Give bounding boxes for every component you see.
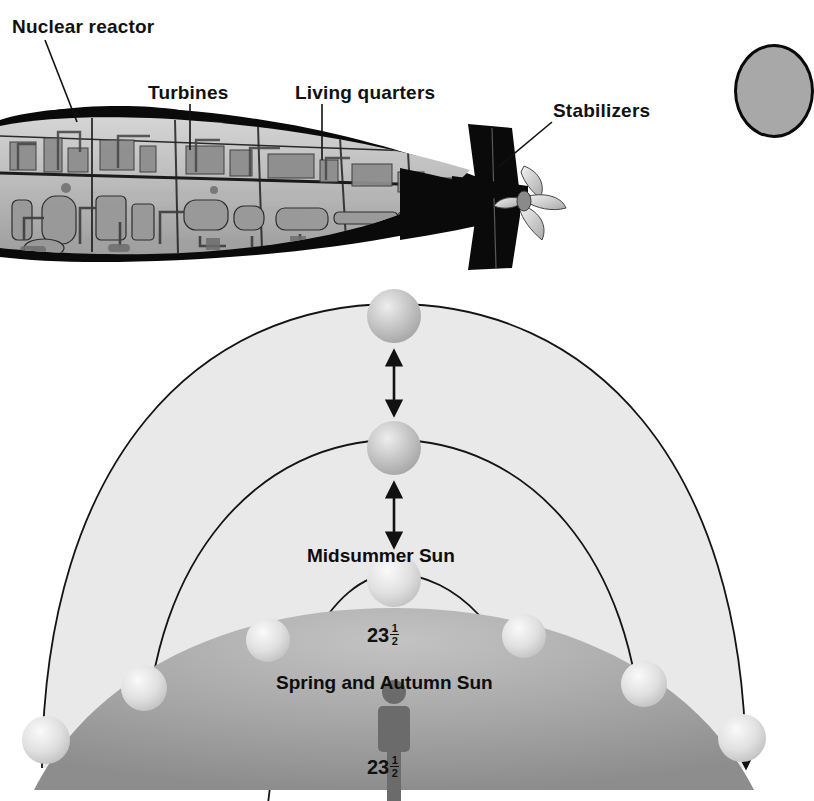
reactor-vessel (42, 196, 76, 244)
submarine-illustration (0, 0, 788, 280)
angle-whole-number: 23 (367, 757, 389, 777)
sun-label-midsummer: Midsummer Sun (307, 545, 455, 567)
sun-sphere-nw (718, 714, 766, 762)
turbine-housing (184, 200, 228, 230)
angle-fraction: 1 2 (390, 755, 399, 778)
fraction-denominator: 2 (392, 768, 398, 778)
sun-sphere-se (246, 618, 290, 662)
angle-annotation-lower: 23 1 2 (367, 755, 399, 778)
angle-whole-number: 23 (367, 625, 389, 645)
fraction-denominator: 2 (392, 636, 398, 646)
sun-sphere-spring-autumn (367, 421, 421, 475)
callout-label-nuclear-reactor: Nuclear reactor (12, 16, 154, 38)
sun-sphere-midsummer (367, 289, 421, 343)
sun-sphere-e (121, 665, 167, 711)
sun-sphere-sw (502, 614, 546, 658)
callout-label-stabilizers: Stabilizers (553, 100, 650, 122)
sun-path-illustration (0, 268, 788, 801)
angle-fraction: 1 2 (390, 623, 399, 646)
sun-sphere-w (621, 661, 667, 707)
callout-label-living-quarters: Living quarters (295, 82, 435, 104)
fraction-numerator: 1 (392, 755, 398, 765)
partial-circle-graphic (734, 44, 814, 138)
callout-label-turbines: Turbines (148, 82, 228, 104)
sun-sphere-ne (22, 716, 70, 764)
sun-label-spring-autumn: Spring and Autumn Sun (276, 672, 493, 694)
fraction-numerator: 1 (392, 623, 398, 633)
sun-path-diagram-figure: Midsummer Sun Spring and Autumn Sun Midw… (0, 268, 788, 801)
nuclear-submarine-cutaway-figure: Nuclear reactor Turbines Living quarters… (0, 0, 788, 280)
angle-annotation-upper: 23 1 2 (367, 623, 399, 646)
